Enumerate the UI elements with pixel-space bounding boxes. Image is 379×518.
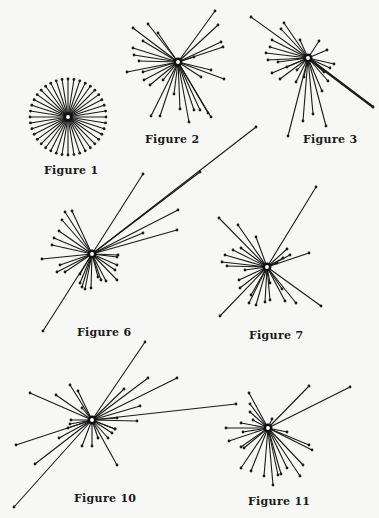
- endpoint-node: [81, 445, 84, 448]
- endpoint-node: [269, 282, 272, 285]
- spoke-line: [268, 387, 350, 428]
- endpoint-node: [210, 116, 213, 119]
- endpoint-node: [58, 437, 61, 440]
- endpoint-node: [318, 40, 321, 43]
- endpoint-node: [250, 470, 253, 473]
- endpoint-node: [34, 463, 37, 466]
- endpoint-node: [217, 24, 220, 27]
- endpoint-node: [103, 127, 106, 130]
- spoke-line: [68, 86, 90, 117]
- spoke-line: [68, 117, 99, 139]
- endpoint-node: [272, 484, 275, 487]
- endpoint-node: [44, 146, 47, 149]
- hub-node: [305, 55, 311, 61]
- hub-node: [264, 264, 270, 270]
- endpoint-node: [51, 244, 54, 247]
- figure-6-caption: Figure 6: [77, 326, 131, 339]
- fig6-star-diagram: [41, 126, 258, 333]
- endpoint-node: [311, 449, 314, 452]
- endpoint-node: [114, 269, 117, 272]
- endpoint-node: [149, 84, 152, 87]
- endpoint-node: [147, 377, 150, 380]
- endpoint-node: [126, 71, 129, 74]
- endpoint-node: [220, 41, 223, 44]
- endpoint-node: [159, 115, 162, 118]
- endpoint-node: [255, 236, 258, 239]
- endpoint-node: [240, 467, 243, 470]
- endpoint-node: [162, 79, 165, 82]
- endpoint-node: [81, 407, 84, 410]
- endpoint-node: [248, 392, 251, 395]
- endpoint-node: [312, 113, 315, 116]
- endpoint-node: [132, 47, 135, 50]
- spoke-line: [56, 395, 92, 420]
- endpoint-node: [69, 423, 72, 426]
- figure-10-caption: Figure 10: [74, 492, 136, 505]
- endpoint-node: [69, 384, 72, 387]
- endpoint-node: [295, 302, 298, 305]
- endpoint-node: [100, 133, 103, 136]
- endpoint-node: [73, 153, 76, 156]
- endpoint-node: [67, 154, 70, 157]
- spoke-line: [92, 404, 236, 420]
- endpoint-node: [218, 217, 221, 220]
- endpoint-node: [142, 173, 145, 176]
- endpoint-node: [333, 63, 336, 66]
- spoke-line: [68, 117, 90, 148]
- endpoint-node: [78, 79, 81, 82]
- endpoint-node: [40, 89, 43, 92]
- spoke-line: [229, 428, 268, 441]
- endpoint-node: [104, 122, 107, 125]
- endpoint-node: [89, 85, 92, 88]
- endpoint-node: [252, 419, 255, 422]
- endpoint-node: [325, 125, 328, 128]
- endpoint-node: [179, 108, 182, 111]
- spoke-line: [267, 253, 309, 267]
- endpoint-node: [295, 81, 298, 84]
- endpoint-node: [104, 110, 107, 113]
- endpoint-node: [142, 40, 145, 43]
- endpoint-node: [41, 258, 44, 261]
- hub-node: [65, 114, 71, 120]
- endpoint-node: [243, 447, 246, 450]
- endpoint-node: [286, 467, 289, 470]
- endpoint-node: [302, 464, 305, 467]
- endpoint-node: [138, 60, 141, 63]
- endpoint-node: [150, 115, 153, 118]
- endpoint-node: [44, 85, 47, 88]
- endpoint-node: [81, 286, 84, 289]
- endpoint-node: [249, 403, 252, 406]
- endpoint-node: [97, 437, 100, 440]
- endpoint-node: [117, 254, 120, 257]
- hub-node: [89, 417, 95, 423]
- spoke-line: [92, 127, 256, 254]
- fig1-star-diagram: [29, 78, 108, 157]
- spoke-line: [284, 23, 308, 58]
- endpoint-node: [71, 210, 74, 213]
- endpoint-node: [36, 93, 39, 96]
- figure-1-caption: Figure 1: [44, 164, 98, 177]
- endpoint-node: [67, 78, 70, 81]
- endpoint-node: [222, 46, 225, 49]
- endpoint-node: [263, 475, 266, 478]
- endpoint-node: [248, 302, 251, 305]
- endpoint-node: [237, 224, 240, 227]
- endpoint-node: [372, 106, 375, 109]
- fig3-star-diagram: [250, 16, 375, 138]
- endpoint-node: [240, 422, 243, 425]
- endpoint-node: [269, 299, 272, 302]
- endpoint-node: [13, 506, 16, 509]
- endpoint-node: [210, 69, 213, 72]
- endpoint-node: [90, 287, 93, 290]
- endpoint-node: [143, 79, 146, 82]
- spoke-line: [92, 378, 148, 420]
- endpoint-node: [58, 230, 61, 233]
- endpoint-node: [139, 405, 142, 408]
- endpoint-node: [277, 474, 280, 477]
- spoke-line: [178, 11, 215, 62]
- endpoint-node: [249, 411, 252, 414]
- endpoint-node: [61, 78, 64, 81]
- spoke-line: [68, 95, 99, 117]
- endpoint-node: [64, 271, 67, 274]
- endpoint-node: [29, 110, 32, 113]
